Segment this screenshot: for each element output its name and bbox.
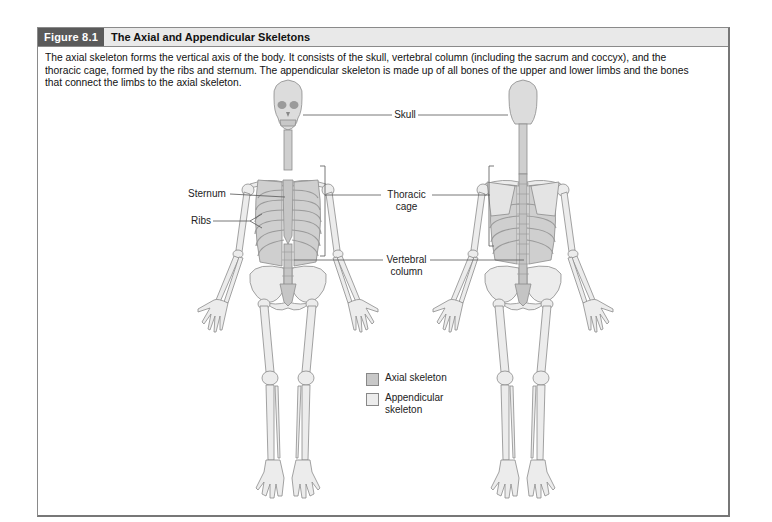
legend: Axial skeleton Appendicular skeleton <box>366 372 447 422</box>
label-sternum: Sternum <box>188 188 226 200</box>
label-ribs: Ribs <box>191 215 211 227</box>
legend-label-appendicular-line2: skeleton <box>385 404 443 416</box>
legend-label-axial: Axial skeleton <box>385 372 447 384</box>
label-skull: Skull <box>392 109 418 121</box>
posterior-skeleton <box>433 80 613 498</box>
label-vertebral-column-line2: column <box>383 266 430 278</box>
label-vertebral-column-line1: Vertebral <box>383 254 430 266</box>
axial-swatch <box>366 373 379 386</box>
legend-label-appendicular-line1: Appendicular <box>385 392 443 404</box>
label-vertebral-column: Vertebral column <box>383 254 430 278</box>
label-thoracic-cage-line1: Thoracic <box>381 189 432 201</box>
appendicular-swatch <box>366 393 379 406</box>
legend-item-appendicular: Appendicular skeleton <box>366 392 447 416</box>
label-thoracic-cage: Thoracic cage <box>381 189 432 213</box>
anterior-skeleton <box>198 80 378 498</box>
legend-item-axial: Axial skeleton <box>366 372 447 386</box>
label-thoracic-cage-line2: cage <box>381 201 432 213</box>
